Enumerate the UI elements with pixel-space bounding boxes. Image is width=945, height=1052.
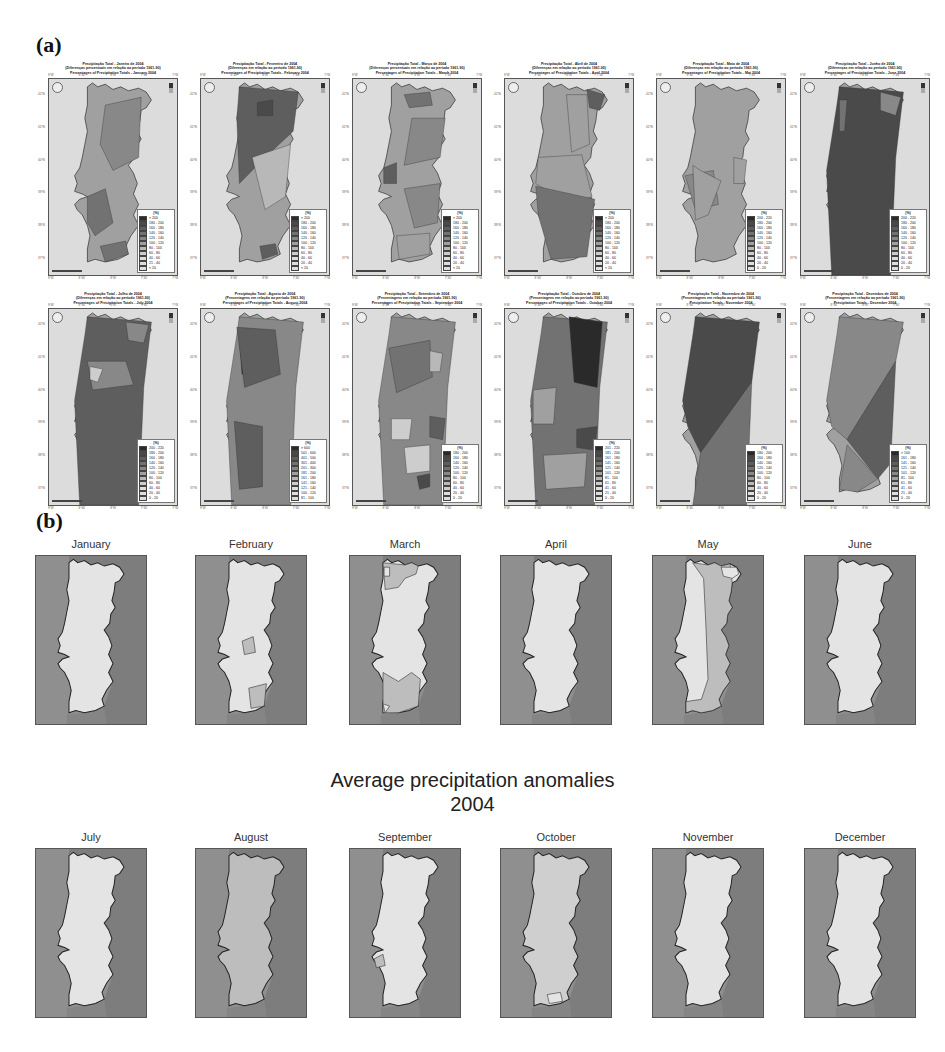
legend-label: 40 - 60: [149, 486, 160, 491]
tick-label: 37°N: [494, 486, 504, 490]
anomaly-map-november: November: [652, 848, 764, 1018]
tick-label: 39°N: [646, 190, 656, 194]
legend-label: 80 - 100: [605, 246, 618, 251]
tick-label: 9°W: [352, 506, 358, 512]
ticks-bottom: 9°W8°30'8°W7°30'7°W: [800, 276, 930, 282]
legend-label: 40 - 60: [149, 256, 160, 261]
legend-label: 0 - 20: [149, 496, 158, 501]
legend-label: 160 - 180: [757, 226, 772, 231]
ticks-bottom: 9°W8°30'8°W7°30'7°W: [504, 276, 634, 282]
legend-label: 101 - 120: [901, 471, 916, 476]
month-label: June: [804, 538, 916, 550]
legend-label: 180 - 200: [757, 221, 772, 226]
month-label: October: [500, 831, 612, 843]
tick-label: 7°W: [172, 276, 178, 282]
legend-label: 121 - 140: [605, 466, 620, 471]
map-frame: (%) 201 - 220181 - 200161 - 180141 - 160…: [504, 308, 634, 506]
tick-label: 8°W: [566, 276, 572, 282]
scale-bar: [356, 270, 386, 272]
tick-label: 40°N: [790, 388, 800, 392]
tick-label: 9°W: [200, 276, 206, 282]
legend-label: 20 - 40: [757, 261, 768, 266]
month-label: November: [652, 831, 764, 843]
legend-label: 0 - 20: [757, 266, 766, 271]
legend-label: 80 - 100: [301, 246, 314, 251]
precip-map-a-6: Precipitação Total - Junho de 2004 (Dife…: [790, 62, 940, 284]
anomaly-map-december: December: [804, 848, 916, 1018]
ticks-left: 42°N41°N40°N39°N38°N37°N: [190, 78, 200, 274]
tick-label: 8°30': [231, 506, 238, 512]
map-legend: (%) 200 - 220180 - 200160 - 180140 - 160…: [137, 439, 175, 503]
legend-swatch: [747, 496, 755, 501]
legend-label: 401 - 500: [301, 456, 316, 461]
map-legend: (%) > 200180 - 200160 - 180140 - 160120 …: [441, 209, 479, 273]
tick-label: 7°W: [324, 506, 330, 512]
map-frame: (%) 200 - 220180 - 200160 - 180140 - 160…: [48, 308, 178, 506]
legend-label: 41 - 60: [901, 486, 912, 491]
tick-label: 7°W: [924, 276, 930, 282]
tick-label: 9°W: [656, 506, 662, 512]
legend-label: 20 - 40: [605, 261, 616, 266]
scale-bar: [52, 270, 82, 272]
ticks-bottom: 9°W8°30'8°W7°30'7°W: [200, 276, 330, 282]
legend-row: 81 - 100: [291, 496, 325, 501]
legend-label: 81 - 100: [901, 476, 914, 481]
legend-label: 140 - 160: [453, 231, 468, 236]
north-arrow-icon: [321, 313, 325, 323]
legend-label: 140 - 160: [453, 461, 468, 466]
month-label: August: [195, 831, 307, 843]
legend-label: 100 - 120: [149, 241, 164, 246]
tick-label: 41°N: [190, 355, 200, 359]
tick-label: 7°W: [324, 276, 330, 282]
center-title-line2: 2004: [0, 792, 945, 816]
tick-label: 38°N: [646, 223, 656, 227]
tick-label: 9°W: [48, 506, 54, 512]
tick-label: 37°N: [646, 256, 656, 260]
legend-swatch: [291, 496, 299, 501]
legend-swatch: [139, 496, 147, 501]
legend-swatch: [291, 266, 299, 271]
legend-label: 181 - 200: [301, 471, 316, 476]
legend-label: 301 - 400: [301, 461, 316, 466]
precip-map-a-1: Precipitação Total - Janeiro de 2004 (Di…: [38, 62, 188, 284]
legend-label: 100 - 120: [757, 241, 772, 246]
north-arrow-icon: [473, 83, 477, 93]
tick-label: 37°N: [790, 486, 800, 490]
ticks-left: 42°N41°N40°N39°N38°N37°N: [190, 308, 200, 504]
scale-bar: [508, 500, 538, 502]
month-label: March: [349, 538, 461, 550]
tick-label: 8°W: [718, 506, 724, 512]
tick-label: 37°N: [38, 486, 48, 490]
ticks-left: 42°N41°N40°N39°N38°N37°N: [38, 78, 48, 274]
tick-label: 42°N: [190, 92, 200, 96]
tick-label: 40°N: [342, 388, 352, 392]
legend-row: 0 - 20: [747, 266, 781, 271]
compass-rose-icon: [204, 82, 215, 93]
portugal-map-svg: [805, 556, 915, 724]
map-frame: (%) 180 - 200160 - 180140 - 160120 - 140…: [656, 308, 786, 506]
map-frame: (%) > 100161 - 180141 - 160121 - 140101 …: [800, 308, 930, 506]
tick-label: 8°W: [262, 276, 268, 282]
portugal-map-svg: [350, 849, 460, 1017]
tick-label: 8°30': [79, 276, 86, 282]
ticks-bottom: 9°W8°30'8°W7°30'7°W: [800, 506, 930, 512]
legend-label: 60 - 80: [453, 251, 464, 256]
tick-label: 38°N: [790, 223, 800, 227]
tick-label: 41°N: [646, 355, 656, 359]
ticks-left: 42°N41°N40°N39°N38°N37°N: [494, 308, 504, 504]
tick-label: 7°W: [780, 506, 786, 512]
month-label: May: [652, 538, 764, 550]
legend-label: 40 - 60: [901, 256, 912, 261]
legend-label: 141 - 160: [605, 461, 620, 466]
legend-label: 20 - 40: [453, 491, 464, 496]
tick-label: 8°W: [110, 276, 116, 282]
tick-label: 8°W: [862, 506, 868, 512]
legend-swatch: [891, 496, 899, 501]
tick-label: 7°W: [172, 506, 178, 512]
scale-bar: [804, 500, 834, 502]
map-frame: [195, 555, 307, 725]
legend-label: 180 - 200: [149, 221, 164, 226]
legend-row: < 20: [443, 266, 477, 271]
legend-row: 0 - 20: [747, 496, 781, 501]
tick-label: 7°30': [445, 276, 452, 282]
